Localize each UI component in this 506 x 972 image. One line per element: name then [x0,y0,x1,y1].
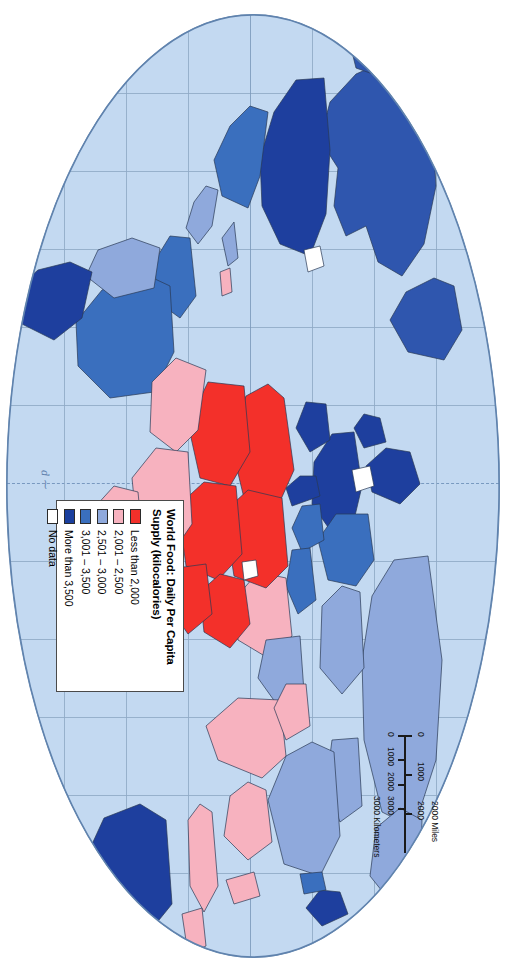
world-map: 0 1000 2000 2000 Miles 0 1000 2000 3000 … [0,0,506,972]
country-new-zealand [68,940,104,964]
country-southeast-asia [224,782,272,860]
legend-item-less-than-2000[interactable]: Less than 2,000 [128,509,143,683]
scale-tick-miles [406,735,412,737]
country-philippines [226,872,260,904]
legend-item-3001-3500[interactable]: 3,001 – 3,500 [79,509,94,683]
scale-tick-miles [406,774,412,776]
country-mexico [214,106,268,208]
scale-unit-miles: 2000 Miles [430,801,440,842]
legend-label: 3,001 – 3,500 [80,530,92,594]
legend-swatch-icon [130,509,141,524]
scale-unit-kilometers: 3000 Kilometers [372,796,382,857]
map-page: 0 1000 2000 2000 Miles 0 1000 2000 3000 … [0,0,506,972]
legend-title: World Food: Daily Per Capita Supply (kil… [150,509,177,683]
country-greenland [390,278,462,360]
legend-title-line1: World Food: Daily Per Capita [164,509,178,683]
legend-swatch-icon [64,509,75,524]
scale-tick-km [398,808,404,810]
scale-tick-miles [406,813,412,815]
country-antarctica [0,0,6,972]
country-turkey [286,548,316,614]
map-legend: World Food: Daily Per Capita Supply (kil… [56,500,184,692]
scale-tick-km [398,759,404,761]
legend-swatch-icon [48,509,59,524]
country-canada [320,60,436,276]
country-indonesia [188,804,218,912]
country-no-data-a [352,466,374,492]
legend-title-line2: Supply (kilocalories) [150,509,164,683]
scale-bar: 0 1000 2000 2000 Miles 0 1000 2000 3000 … [366,735,444,885]
scale-label-miles-2000: 2000 [416,801,426,820]
country-united-kingdom [354,414,386,448]
scale-tick-km [398,735,404,737]
scale-label-km-0: 0 [386,732,396,737]
country-korea [300,872,326,894]
handwritten-signature: d ⁓ [39,470,51,490]
scale-label-km-2000: 2000 [386,772,396,791]
scale-label-miles-1000: 1000 [416,762,426,781]
country-no-data-c [242,560,258,580]
scale-label-km-1000: 1000 [386,747,396,766]
legend-swatch-icon [114,509,125,524]
country-no-data-b [304,246,324,272]
legend-item-2001-2500[interactable]: 2,001 – 2,500 [112,509,127,683]
country-japan [306,890,348,926]
country-india [206,698,286,778]
scale-tick-km [398,784,404,786]
country-haiti-dr [220,268,232,296]
country-united-states [260,78,330,256]
scale-label-miles-0: 0 [416,732,426,737]
country-scandinavia [366,448,420,504]
country-australia [82,804,172,936]
scale-axis [404,735,406,853]
legend-label: More than 3,500 [64,530,76,606]
country-central-america [186,186,218,244]
legend-label: 2,501 – 3,000 [97,530,109,594]
country-peru-bolivia [86,238,160,298]
legend-item-no-data[interactable]: No data [46,509,61,683]
country-alaska [348,12,402,78]
legend-label: No data [47,530,59,567]
legend-item-2501-3000[interactable]: 2,501 – 3,000 [95,509,110,683]
legend-item-more-than-3500[interactable]: More than 3,500 [62,509,77,683]
legend-swatch-icon [97,509,108,524]
country-cuba [222,222,238,266]
legend-swatch-icon [81,509,92,524]
legend-label: 2,001 – 2,500 [113,530,125,594]
legend-label: Less than 2,000 [130,530,142,605]
scale-label-km-3000: 3000 [386,796,396,815]
country-kazakhstan [320,586,364,694]
